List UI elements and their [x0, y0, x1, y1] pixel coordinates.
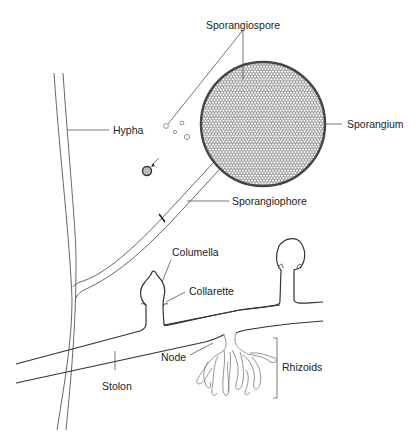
- label-rhizoids: Rhizoids: [282, 361, 322, 373]
- label-node: Node: [161, 351, 186, 363]
- rhizoids: [197, 333, 277, 395]
- label-columella: Columella: [172, 246, 219, 258]
- diagram-drawing: [0, 0, 416, 443]
- sporangiophore: [73, 163, 219, 298]
- sporangium: [201, 62, 325, 186]
- loose-spores: [143, 121, 190, 175]
- label-hypha: Hypha: [113, 124, 143, 136]
- right-sporangiophore: [277, 239, 305, 300]
- label-sporangiospore: Sporangiospore: [206, 19, 280, 31]
- label-sporangiophore: Sporangiophore: [232, 195, 307, 207]
- label-stolon: Stolon: [102, 380, 132, 392]
- rhizopus-diagram: Sporangiospore Sporangium Hypha Sporangi…: [0, 0, 416, 443]
- hypha: [54, 73, 76, 430]
- label-sporangium: Sporangium: [347, 118, 404, 130]
- label-collarette: Collarette: [189, 285, 234, 297]
